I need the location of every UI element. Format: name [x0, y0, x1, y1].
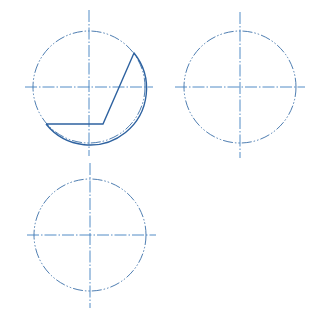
drawing-canvas	[0, 0, 323, 309]
view-top-left	[25, 10, 153, 156]
view-top-right	[175, 12, 305, 158]
view-bottom-left	[27, 163, 156, 308]
section-profile	[46, 53, 147, 145]
